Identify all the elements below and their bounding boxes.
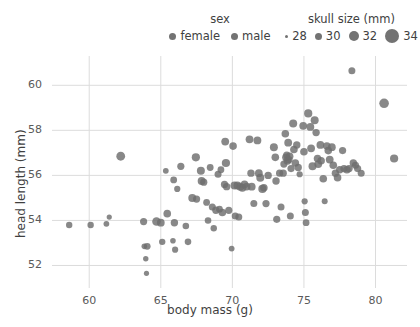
scatter-point bbox=[264, 172, 271, 179]
scatter-point bbox=[300, 148, 308, 156]
scatter-point bbox=[225, 207, 232, 214]
scatter-point bbox=[334, 174, 342, 182]
scatter-point bbox=[306, 123, 314, 131]
scatter-point bbox=[289, 120, 297, 128]
scatter-point bbox=[303, 219, 310, 226]
scatter-point bbox=[247, 169, 254, 176]
scatter-point bbox=[192, 153, 200, 161]
scatter-point bbox=[293, 141, 300, 148]
scatter-point bbox=[339, 147, 346, 154]
scatter-point bbox=[262, 200, 269, 207]
scatter-point bbox=[260, 184, 268, 192]
scatter-point bbox=[200, 179, 207, 186]
scatter-point bbox=[248, 183, 256, 191]
scatter-point bbox=[143, 256, 148, 261]
scatter-point bbox=[185, 239, 192, 246]
scatter-point bbox=[297, 171, 303, 177]
scatter-point bbox=[163, 168, 169, 174]
scatter-point bbox=[170, 176, 177, 183]
scatter-point bbox=[144, 243, 151, 250]
scatter-point bbox=[250, 200, 257, 207]
scatter-point bbox=[221, 138, 229, 146]
scatter-point bbox=[272, 154, 280, 162]
scatter-point bbox=[177, 163, 184, 170]
scatter-point bbox=[319, 175, 327, 183]
scatter-point bbox=[157, 219, 165, 227]
scatter-point bbox=[246, 135, 254, 143]
scatter-plot-figure: sex female male skull size (mm) 28 bbox=[0, 0, 420, 327]
scatter-point bbox=[203, 199, 210, 206]
scatter-point bbox=[307, 144, 315, 152]
scatter-point bbox=[302, 209, 309, 216]
scatter-point bbox=[316, 141, 324, 149]
scatter-point bbox=[174, 186, 180, 192]
plot-area bbox=[0, 0, 420, 327]
scatter-point bbox=[235, 214, 242, 221]
scatter-point bbox=[140, 218, 147, 225]
scatter-point bbox=[207, 164, 214, 171]
scatter-point bbox=[379, 99, 389, 109]
scatter-point bbox=[170, 238, 176, 244]
scatter-point bbox=[254, 137, 262, 145]
scatter-point bbox=[116, 152, 125, 161]
scatter-point bbox=[144, 271, 149, 276]
scatter-point bbox=[282, 130, 290, 138]
scatter-point bbox=[302, 198, 308, 204]
scatter-point bbox=[229, 142, 237, 150]
scatter-point bbox=[159, 239, 165, 245]
scatter-point bbox=[171, 219, 178, 226]
scatter-point bbox=[322, 198, 328, 204]
scatter-point bbox=[348, 67, 355, 74]
scatter-point bbox=[256, 174, 264, 182]
scatter-point bbox=[222, 159, 230, 167]
y-axis-title: head length (mm) bbox=[14, 129, 28, 238]
scatter-point bbox=[295, 164, 302, 171]
scatter-point bbox=[66, 222, 72, 228]
scatter-point bbox=[312, 129, 319, 136]
scatter-point bbox=[328, 143, 336, 151]
scatter-point bbox=[229, 246, 235, 252]
scatter-point bbox=[205, 217, 212, 224]
scatter-point bbox=[163, 210, 171, 218]
scatter-point bbox=[218, 166, 225, 173]
scatter-point bbox=[183, 223, 190, 230]
scatter-point bbox=[211, 225, 217, 231]
gridlines bbox=[52, 56, 407, 288]
y-tick-label: 52 bbox=[8, 258, 42, 271]
x-axis-title: body mass (g) bbox=[0, 303, 420, 317]
scatter-point bbox=[103, 221, 109, 227]
scatter-point bbox=[278, 203, 285, 210]
scatter-point bbox=[193, 195, 200, 202]
scatter-point bbox=[299, 122, 307, 130]
scatter-point bbox=[270, 143, 278, 151]
scatter-point bbox=[304, 109, 312, 117]
scatter-point bbox=[219, 209, 227, 217]
scatter-point bbox=[272, 177, 279, 184]
scatter-point bbox=[107, 214, 112, 219]
y-tick-label: 60 bbox=[8, 78, 42, 91]
scatter-point bbox=[284, 139, 292, 147]
scatter-point bbox=[87, 222, 93, 228]
scatter-point bbox=[287, 212, 294, 219]
scatter-point bbox=[286, 152, 294, 160]
scatter-point bbox=[172, 247, 178, 253]
scatter-point bbox=[329, 161, 337, 169]
scatter-point bbox=[197, 167, 205, 175]
scatter-point bbox=[279, 169, 286, 176]
scatter-point bbox=[273, 216, 280, 223]
scatter-point bbox=[311, 116, 319, 124]
scatter-point bbox=[358, 170, 365, 177]
scatter-point bbox=[390, 154, 398, 162]
scatter-point bbox=[223, 183, 230, 190]
scatter-point bbox=[317, 157, 325, 165]
